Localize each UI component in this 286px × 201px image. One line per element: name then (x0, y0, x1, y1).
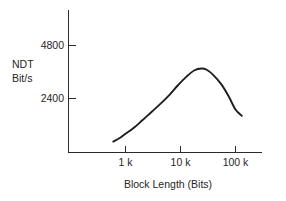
chart-figure: 4800 2400 1 k 10 k 100 k NDT Bit/s Block… (0, 0, 286, 201)
data-series-ndt (113, 68, 241, 141)
y-tick-label-2400: 2400 (41, 92, 65, 104)
chart-plot-area: 4800 2400 1 k 10 k 100 k NDT Bit/s Block… (0, 0, 286, 201)
x-axis-title: Block Length (Bits) (124, 178, 212, 190)
x-tick-label-100k: 100 k (223, 156, 249, 168)
y-tick-label-4800: 4800 (41, 39, 65, 51)
y-axis-title-line2: Bit/s (12, 72, 32, 84)
x-tick-label-10k: 10 k (171, 156, 192, 168)
x-tick-label-1k: 1 k (118, 156, 133, 168)
y-axis-title-line1: NDT (12, 58, 34, 70)
